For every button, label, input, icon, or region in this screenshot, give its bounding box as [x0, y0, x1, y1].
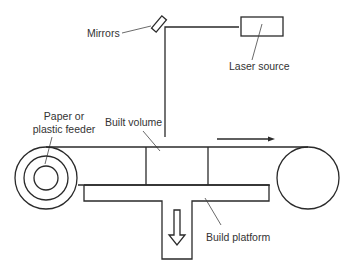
mirrors-leader	[122, 26, 151, 33]
take-up-roller	[277, 147, 339, 209]
feed-direction-arrowhead	[268, 137, 275, 142]
laser-beam	[165, 27, 239, 137]
laser-source-box	[241, 17, 283, 36]
lom-diagram: Laser source Mirrors Paper or plastic fe…	[0, 0, 352, 274]
feeder-leader	[45, 137, 52, 164]
built-volume-label: Built volume	[105, 116, 162, 128]
build-platform-label: Build platform	[206, 231, 270, 243]
feeder-label-line2: plastic feeder	[33, 123, 96, 135]
down-arrow-icon	[169, 210, 185, 245]
build-platform	[84, 185, 269, 259]
mirrors-label: Mirrors	[87, 27, 120, 39]
feed-roller-inner	[34, 166, 58, 190]
build-platform-leader	[205, 198, 221, 225]
mirror-icon	[152, 16, 167, 32]
feeder-label-line1: Paper or	[44, 110, 85, 122]
laser-source-label: Laser source	[229, 60, 290, 72]
feed-roller-middle	[24, 156, 68, 200]
laser-source-leader	[252, 24, 262, 60]
